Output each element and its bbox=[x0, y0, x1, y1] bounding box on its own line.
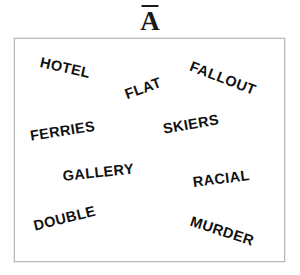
stimulus-panel: A HOTEL FLAT FALLOUT FERRIES SKIERS GALL… bbox=[0, 0, 300, 275]
word-item-racial: RACIAL bbox=[192, 168, 251, 189]
word-item-flat: FLAT bbox=[123, 75, 163, 101]
word-item-double: DOUBLE bbox=[32, 204, 97, 233]
word-item-skiers: SKIERS bbox=[162, 112, 220, 136]
word-item-gallery: GALLERY bbox=[62, 162, 135, 184]
word-item-murder: MURDER bbox=[189, 214, 256, 248]
title-area: A bbox=[0, 2, 300, 36]
word-item-fallout: FALLOUT bbox=[188, 59, 258, 97]
word-item-ferries: FERRIES bbox=[29, 119, 96, 144]
page-title: A bbox=[140, 4, 160, 35]
word-list-box: HOTEL FLAT FALLOUT FERRIES SKIERS GALLER… bbox=[14, 38, 285, 262]
word-item-hotel: HOTEL bbox=[39, 55, 92, 81]
